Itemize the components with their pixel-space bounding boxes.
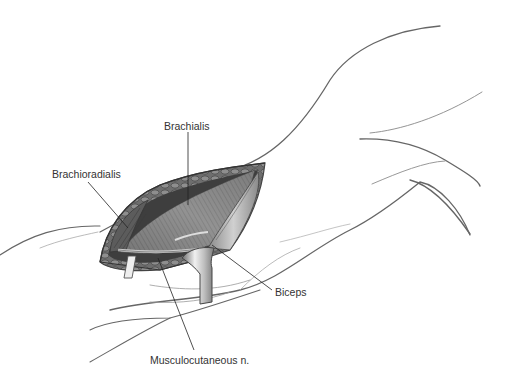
- label-musculocutaneous-nerve: Musculocutaneous n.: [150, 354, 249, 366]
- incision-exposure: [100, 163, 265, 271]
- label-brachialis: Brachialis: [164, 120, 210, 132]
- label-biceps: Biceps: [275, 286, 307, 298]
- leader-brachioradialis: [88, 182, 128, 228]
- leader-musculocutaneous: [158, 258, 194, 350]
- leader-biceps: [212, 245, 272, 290]
- surgical-illustration: [0, 0, 505, 382]
- label-brachioradialis: Brachioradialis: [52, 168, 121, 180]
